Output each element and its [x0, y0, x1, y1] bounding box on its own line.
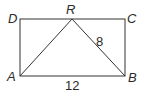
geometry-diagram: D R C A B 8 12	[0, 0, 142, 92]
vertex-label-c: C	[127, 11, 137, 26]
vertex-label-a: A	[6, 69, 16, 84]
vertex-label-d: D	[8, 11, 17, 26]
vertex-label-b: B	[128, 70, 137, 85]
rectangle-abcd	[20, 19, 125, 76]
vertex-label-r: R	[66, 2, 75, 17]
length-label-rb: 8	[96, 34, 103, 49]
segment-ar	[20, 19, 72, 76]
length-label-ab: 12	[65, 78, 79, 92]
